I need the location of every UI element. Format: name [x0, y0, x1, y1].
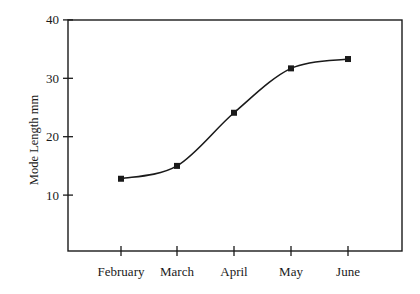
data-point-marker: [174, 163, 180, 169]
plot-frame: [68, 20, 402, 251]
x-tick-label: March: [160, 264, 194, 279]
data-point-marker: [118, 176, 124, 182]
x-tick-label: June: [336, 264, 360, 279]
y-tick-label: 20: [46, 129, 59, 144]
line-chart: 10203040 FebruaryMarchAprilMayJune Mode …: [0, 0, 420, 294]
x-tick-label: February: [98, 264, 145, 279]
y-axis-title: Mode Length mm: [27, 95, 41, 186]
y-axis-ticks: 10203040: [46, 12, 73, 202]
data-point-marker: [345, 56, 351, 62]
series-line: [121, 59, 348, 179]
y-tick-label: 30: [46, 71, 59, 86]
data-markers: [118, 56, 351, 182]
x-tick-label: May: [279, 264, 303, 279]
y-tick-label: 40: [46, 12, 59, 27]
x-tick-label: April: [220, 264, 248, 279]
data-point-marker: [231, 110, 237, 116]
y-tick-label: 10: [46, 188, 59, 203]
data-point-marker: [288, 65, 294, 71]
